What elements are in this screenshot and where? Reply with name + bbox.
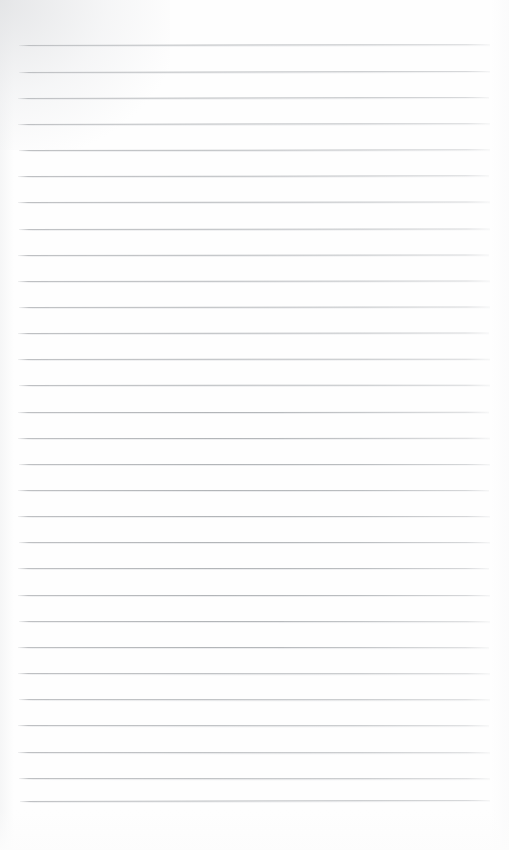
rule-line bbox=[20, 800, 490, 802]
rule-line bbox=[19, 228, 490, 230]
rule-line bbox=[19, 149, 490, 151]
rule-line bbox=[19, 621, 490, 622]
rule-line bbox=[19, 464, 490, 465]
rule-line bbox=[19, 542, 490, 543]
rule-line bbox=[18, 647, 489, 648]
rule-line bbox=[18, 725, 489, 726]
rule-line bbox=[18, 175, 489, 177]
rule-line bbox=[19, 385, 490, 386]
rule-line bbox=[18, 595, 490, 596]
rule-line bbox=[18, 673, 490, 674]
rule-line bbox=[18, 568, 489, 569]
rule-line bbox=[18, 202, 490, 204]
rule-line bbox=[19, 699, 490, 700]
rule-line bbox=[19, 71, 490, 73]
rule-line bbox=[19, 45, 490, 47]
rule-line bbox=[18, 752, 490, 753]
ruled-writing-area bbox=[0, 0, 509, 850]
rule-line bbox=[19, 306, 490, 307]
rule-line bbox=[18, 97, 489, 99]
rule-line bbox=[18, 333, 489, 334]
rule-line bbox=[18, 280, 490, 282]
rule-line bbox=[18, 516, 490, 517]
notepad-page bbox=[0, 0, 509, 850]
rule-line bbox=[18, 254, 489, 255]
rule-line bbox=[19, 778, 490, 779]
rule-line bbox=[18, 411, 489, 412]
rule-line bbox=[18, 123, 490, 125]
rule-line bbox=[18, 437, 490, 438]
rule-line bbox=[18, 490, 489, 491]
rule-line bbox=[18, 359, 490, 360]
